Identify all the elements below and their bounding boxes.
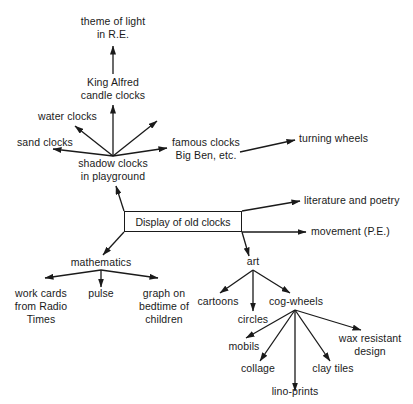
node-line: candle clocks [68, 89, 158, 102]
arrow-to-work-cards [45, 270, 101, 278]
arrow-to-cog-wheels [253, 270, 290, 293]
node-work-cards: work cards from Radio Times [8, 287, 74, 326]
node-line: water clocks [38, 110, 97, 123]
node-literature-and-poetry: literature and poetry [304, 194, 400, 207]
node-line: pulse [80, 287, 122, 300]
node-line: art [238, 255, 268, 268]
arrow-to-literature [242, 201, 300, 211]
node-line: sand clocks [17, 136, 73, 149]
arrow-to-shadow-clocks [116, 186, 124, 211]
center-node-display-of-old-clocks: Display of old clocks [124, 211, 242, 232]
node-water-clocks: water clocks [38, 110, 97, 123]
node-line: movement (P.E.) [311, 225, 390, 238]
node-line: King Alfred [68, 76, 158, 89]
node-line: famous clocks [168, 136, 244, 149]
node-line: shadow clocks [68, 157, 158, 170]
node-shadow-clocks: shadow clocks in playground [68, 157, 158, 183]
arrow-to-cartoons [220, 270, 253, 293]
node-famous-clocks: famous clocks Big Ben, etc. [168, 136, 244, 162]
node-circles: circles [231, 313, 275, 326]
node-lino-prints: lino-prints [267, 385, 323, 398]
node-graph-on-bedtime: graph on bedtime of children [134, 287, 194, 326]
node-collage: collage [235, 362, 281, 375]
node-pulse: pulse [80, 287, 122, 300]
node-line: lino-prints [267, 385, 323, 398]
node-theme-of-light: theme of light in R.E. [73, 15, 153, 41]
arrow-to-graph [101, 270, 158, 278]
node-cartoons: cartoons [193, 295, 243, 308]
node-line: Times [8, 313, 74, 326]
node-mobils: mobils [224, 340, 264, 353]
node-mathematics: mathematics [61, 256, 141, 269]
arrow-to-art [242, 232, 249, 256]
center-node-label: Display of old clocks [135, 216, 230, 228]
node-line: in R.E. [73, 28, 153, 41]
node-line: turning wheels [299, 132, 368, 145]
node-line: cartoons [193, 295, 243, 308]
node-cog-wheels: cog-wheels [266, 295, 326, 308]
arrow-to-mathematics [103, 232, 124, 255]
node-movement: movement (P.E.) [311, 225, 390, 238]
node-art: art [238, 255, 268, 268]
node-wax-resistant-design: wax resistant design [332, 332, 408, 358]
node-line: bedtime of [134, 300, 194, 313]
node-line: design [332, 345, 408, 358]
node-line: mathematics [61, 256, 141, 269]
node-line: theme of light [73, 15, 153, 28]
topic-web-diagram: Display of old clocks theme of light in … [0, 0, 413, 404]
node-line: clay tiles [309, 362, 357, 375]
arrow-to-wax-resistant [295, 310, 361, 330]
node-sand-clocks: sand clocks [17, 136, 73, 149]
arrow-to-sand-clocks [53, 149, 113, 156]
node-line: wax resistant [332, 332, 408, 345]
node-turning-wheels: turning wheels [299, 132, 368, 145]
node-line: from Radio [8, 300, 74, 313]
arrow-to-clay-tiles [295, 310, 330, 361]
node-line: circles [231, 313, 275, 326]
node-line: work cards [8, 287, 74, 300]
node-line: in playground [68, 170, 158, 183]
arrow-to-turning-wheels [240, 140, 295, 152]
node-line: literature and poetry [304, 194, 400, 207]
node-line: cog-wheels [266, 295, 326, 308]
node-clay-tiles: clay tiles [309, 362, 357, 375]
node-line: graph on [134, 287, 194, 300]
node-line: Big Ben, etc. [168, 149, 244, 162]
node-line: collage [235, 362, 281, 375]
arrow-to-water-clocks [75, 126, 113, 156]
node-line: children [134, 313, 194, 326]
node-line: mobils [224, 340, 264, 353]
node-king-alfred-candle-clocks: King Alfred candle clocks [68, 76, 158, 102]
